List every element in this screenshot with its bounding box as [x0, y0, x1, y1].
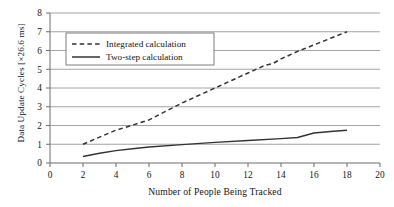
y-ticks: [46, 13, 50, 163]
x-tick-label: 20: [375, 170, 385, 180]
legend: Integrated calculation Two-step calculat…: [66, 33, 214, 65]
y-tick-labels: 8 7 6 5 4 3 2 1 0: [37, 8, 42, 168]
x-tick-label: 12: [243, 170, 253, 180]
x-tick-label: 2: [81, 170, 86, 180]
x-tick-label: 16: [309, 170, 319, 180]
x-tick-label: 10: [210, 170, 220, 180]
x-tick-label: 18: [342, 170, 352, 180]
chart-figure: Data Update Cycles [×26.6 ms] Number of …: [0, 0, 394, 207]
y-tick-label: 7: [37, 27, 42, 37]
x-tick-label: 8: [180, 170, 185, 180]
y-tick-label: 3: [37, 102, 42, 112]
x-ticks: [50, 163, 380, 167]
y-tick-label: 5: [37, 65, 42, 75]
plot-area: 8 7 6 5 4 3 2 1 0 0 2 4: [0, 0, 394, 207]
x-tick-label: 6: [147, 170, 152, 180]
x-tick-label: 4: [114, 170, 119, 180]
y-tick-label: 0: [37, 158, 42, 168]
series-line-two-step-calculation: [83, 130, 347, 156]
y-tick-label: 6: [37, 46, 42, 56]
y-tick-label: 1: [37, 140, 42, 150]
y-tick-label: 8: [37, 8, 42, 18]
legend-label-integrated-calculation: Integrated calculation: [106, 39, 186, 49]
x-tick-labels: 0 2 4 6 8 10 12 14 16 18 20: [48, 170, 385, 180]
y-tick-label: 2: [37, 121, 42, 131]
legend-label-two-step-calculation: Two-step calculation: [106, 52, 183, 62]
x-tick-label: 14: [276, 170, 286, 180]
x-tick-label: 0: [48, 170, 53, 180]
y-tick-label: 4: [37, 83, 42, 93]
